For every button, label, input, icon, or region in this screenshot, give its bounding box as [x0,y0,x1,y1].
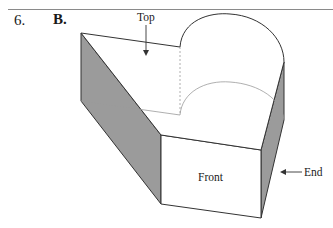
end-arrow-icon [280,169,286,175]
label-end: End [304,166,323,178]
solid-figure: Top Front End [0,0,333,228]
label-front: Front [198,171,224,183]
label-top: Top [137,11,155,24]
